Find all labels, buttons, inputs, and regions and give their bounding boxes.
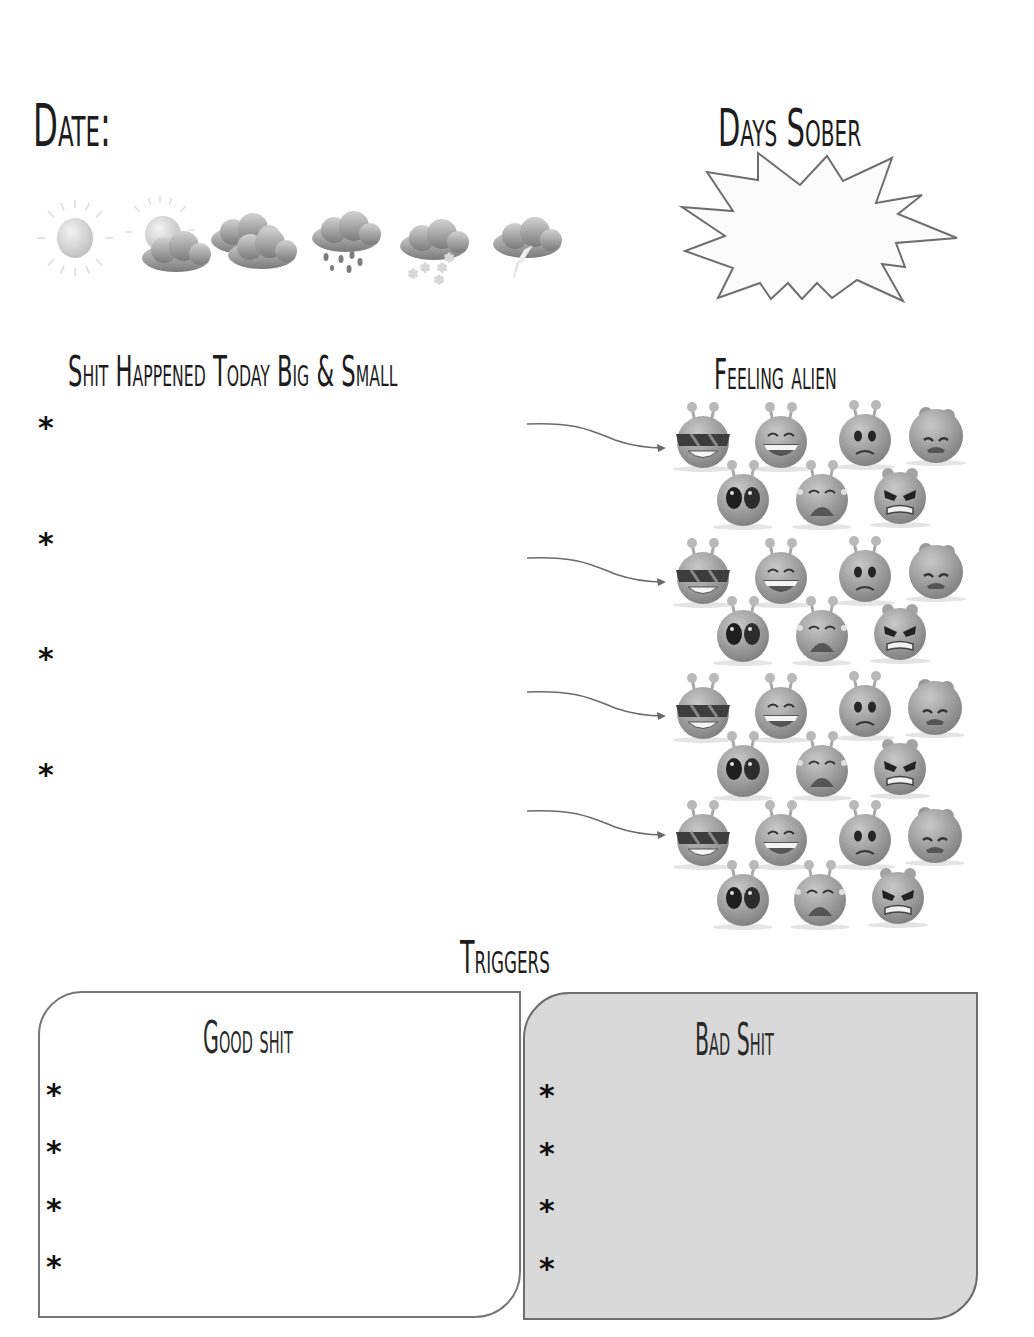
arrow-2 [527,558,664,582]
bad-bullet-2[interactable]: * [539,1139,555,1169]
alien-cool-icon [673,673,733,743]
good-triggers-title: Good shit [203,1012,293,1063]
alien-cool-icon [673,538,733,608]
alien-sad-icon [906,543,966,602]
alien-sad-icon [905,679,965,738]
feeling-group-4[interactable] [673,800,965,930]
alien-angry-icon [868,868,928,928]
alien-shocked-icon [713,860,773,930]
alien-crying-icon [790,860,850,930]
good-bullet-2[interactable]: * [46,1137,62,1167]
svg-text:✻: ✻ [420,261,430,275]
good-bullet-1[interactable]: * [46,1080,62,1110]
bad-bullet-1[interactable]: * [539,1081,555,1111]
cloudy-icon[interactable] [211,213,297,269]
alien-angry-icon [870,468,930,528]
alien-worried-icon [835,536,895,606]
triggers-title: Triggers [460,932,550,983]
weather-icons: ✻✻ ✻✻✻ [30,190,575,290]
days-sober-burst[interactable] [675,150,965,310]
alien-worried-icon [835,800,895,870]
alien-sad-icon [905,807,965,866]
alien-sad-icon [906,407,966,466]
event-bullet-3[interactable]: * [38,644,54,674]
alien-laughing-icon [751,800,811,870]
bad-bullet-4[interactable]: * [539,1254,555,1284]
arrow-1 [527,424,664,448]
good-bullet-4[interactable]: * [46,1252,62,1282]
svg-text:✻: ✻ [434,273,444,287]
snow-icon[interactable]: ✻✻ ✻✻✻ [400,219,469,287]
feelings-title: Feeling alien [714,350,837,399]
alien-worried-icon [835,671,895,741]
days-sober-label: Days Sober [718,98,861,158]
alien-laughing-icon [751,538,811,608]
svg-text:✻: ✻ [408,267,418,281]
alien-worried-icon [835,400,895,470]
sunny-icon[interactable] [37,200,113,276]
arrow-4 [527,811,664,835]
alien-laughing-icon [751,402,811,472]
alien-laughing-icon [751,673,811,743]
bad-triggers-title: Bad Shit [695,1014,774,1065]
event-bullet-2[interactable]: * [38,529,54,559]
alien-angry-icon [870,604,930,664]
feeling-group-2[interactable] [673,536,966,666]
arrows [520,410,670,850]
partly-cloudy-icon[interactable] [125,196,211,272]
event-bullet-4[interactable]: * [38,760,54,790]
feeling-group-3[interactable] [673,671,965,801]
thunderstorm-icon[interactable] [493,217,562,278]
arrow-3 [527,692,664,716]
feeling-group-1[interactable] [673,400,966,530]
bad-bullet-3[interactable]: * [539,1196,555,1226]
events-title: Shit Happened Today Big & Small [68,347,397,396]
rain-icon[interactable] [312,211,381,273]
alien-cool-icon [673,800,733,870]
svg-text:✻: ✻ [444,251,454,265]
alien-angry-icon [870,739,930,799]
feelings-grid [665,395,975,940]
alien-cool-icon [673,402,733,472]
event-bullet-1[interactable]: * [38,413,54,443]
good-bullet-3[interactable]: * [46,1195,62,1225]
date-label: Date: [33,92,111,160]
